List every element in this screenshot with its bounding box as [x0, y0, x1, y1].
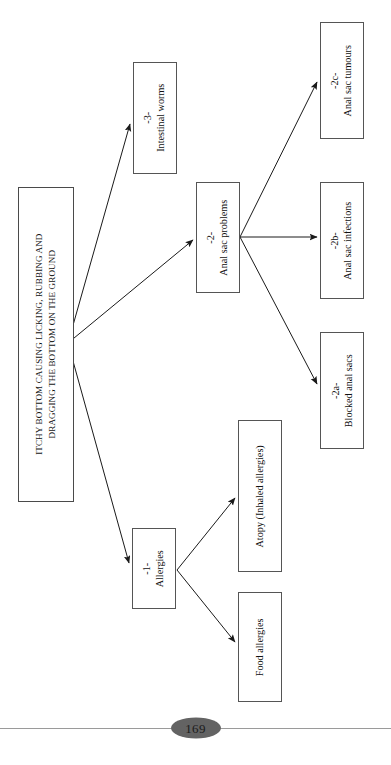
node-intestinal-worms-code: -3-: [142, 84, 155, 152]
node-anal-sac-infections-code: -2b-: [329, 201, 342, 279]
node-allergies[interactable]: -1- Allergies: [132, 528, 176, 609]
edge-anal-sac-to-tumours: [240, 82, 317, 237]
node-allergies-code: -1-: [141, 550, 154, 587]
node-allergies-text: -1- Allergies: [141, 550, 167, 587]
node-allergies-label: Allergies: [154, 550, 167, 587]
node-anal-sac-tumours-code: -2c-: [329, 45, 342, 116]
node-food-allergies-text: Food allergies: [254, 618, 267, 676]
node-anal-sac-infections-text: -2b- Anal sac infections: [329, 201, 355, 279]
edge-allergies-to-atopy: [177, 498, 235, 570]
node-root-text: ITCHY BOTTOM CAUSING LICKING, RUBBING AN…: [33, 234, 59, 455]
node-anal-sac-tumours-text: -2c- Anal sac tumours: [329, 45, 355, 116]
edge-root-to-anal-sac: [68, 240, 193, 343]
edge-allergies-to-food: [177, 570, 235, 642]
edge-root-to-allergies: [68, 343, 129, 563]
node-anal-sac-problems-label: Anal sac problems: [218, 200, 231, 276]
page-number-badge: 169: [171, 718, 221, 739]
node-blocked-anal-sacs-text: -2a- Blocked anal sacs: [329, 354, 355, 427]
node-anal-sac-infections-label: Anal sac infections: [342, 201, 355, 279]
node-anal-sac-infections[interactable]: -2b- Anal sac infections: [320, 182, 364, 299]
node-food-allergies[interactable]: Food allergies: [238, 592, 282, 702]
node-blocked-anal-sacs-code: -2a-: [329, 354, 342, 427]
node-atopy[interactable]: Atopy (Inhaled allergies): [238, 420, 282, 572]
page-canvas: ITCHY BOTTOM CAUSING LICKING, RUBBING AN…: [0, 0, 391, 765]
edge-root-to-worms: [68, 124, 130, 343]
node-anal-sac-problems-text: -2- Anal sac problems: [205, 200, 231, 276]
node-anal-sac-problems-code: -2-: [205, 200, 218, 276]
node-anal-sac-tumours-label: Anal sac tumours: [342, 45, 355, 116]
node-root-itchy-bottom[interactable]: ITCHY BOTTOM CAUSING LICKING, RUBBING AN…: [18, 187, 74, 502]
node-food-allergies-label: Food allergies: [254, 618, 267, 676]
node-anal-sac-tumours[interactable]: -2c- Anal sac tumours: [320, 22, 364, 139]
node-anal-sac-problems[interactable]: -2- Anal sac problems: [196, 182, 240, 293]
node-atopy-text: Atopy (Inhaled allergies): [254, 445, 267, 547]
node-intestinal-worms-text: -3- Intestinal worms: [142, 84, 168, 152]
node-root-line1: ITCHY BOTTOM CAUSING LICKING, RUBBING AN…: [33, 234, 46, 455]
edge-anal-sac-to-blocked: [240, 237, 317, 384]
node-root-line2: DRAGGING THE BOTTOM ON THE GROUND: [46, 234, 59, 455]
node-intestinal-worms-label: Intestinal worms: [155, 84, 168, 152]
page-footer: 169: [0, 713, 391, 743]
page-number: 169: [185, 720, 206, 736]
flowchart-diagram: ITCHY BOTTOM CAUSING LICKING, RUBBING AN…: [0, 0, 391, 720]
node-atopy-label: Atopy (Inhaled allergies): [254, 445, 267, 547]
node-intestinal-worms[interactable]: -3- Intestinal worms: [133, 62, 177, 174]
node-blocked-anal-sacs[interactable]: -2a- Blocked anal sacs: [320, 332, 364, 449]
node-blocked-anal-sacs-label: Blocked anal sacs: [342, 354, 355, 427]
